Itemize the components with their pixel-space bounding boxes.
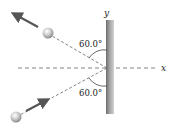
lower-angle-label: 60.0° [79,88,102,98]
collision-diagram: x y 60.0° 60.0° [0,0,174,132]
upper-angle-arc [89,50,107,58]
y-axis-label: y [103,8,110,18]
x-axis: x [18,63,166,73]
incoming-ball [11,101,46,123]
upper-angle-label: 60.0° [79,39,102,49]
outgoing-ball [16,15,54,39]
lower-angle-arc [89,78,107,86]
incoming-velocity-arrow-icon [26,101,45,111]
wall: y [103,8,114,114]
outgoing-velocity-arrow-icon [16,15,38,27]
x-axis-label: x [161,63,166,73]
